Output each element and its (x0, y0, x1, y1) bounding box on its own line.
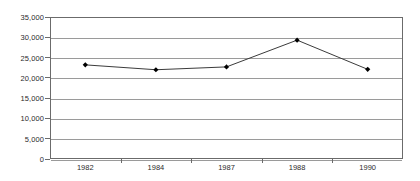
x-axis-tick-mark (332, 159, 333, 163)
data-point-marker (365, 67, 370, 72)
y-axis: 05,00010,00015,00020,00025,00030,00035,0… (0, 0, 46, 181)
line-chart: 05,00010,00015,00020,00025,00030,00035,0… (0, 0, 420, 181)
y-axis-tick-label: 5,000 (0, 134, 44, 143)
y-axis-tick-mark (45, 159, 50, 160)
x-axis-tick-label: 1990 (359, 163, 376, 172)
x-axis: 19821984198719881990 (50, 163, 403, 179)
y-axis-tick-mark (45, 17, 50, 18)
data-point-marker (224, 64, 229, 69)
y-axis-tick-label: 35,000 (0, 13, 44, 22)
x-axis-tick-label: 1987 (218, 163, 235, 172)
x-axis-tick-mark (191, 159, 192, 163)
y-axis-tick-label: 10,000 (0, 114, 44, 123)
y-axis-tick-label: 15,000 (0, 94, 44, 103)
x-axis-tick-label: 1988 (289, 163, 306, 172)
data-point-marker (83, 62, 88, 67)
y-axis-tick-mark (45, 98, 50, 99)
y-axis-tick-label: 20,000 (0, 73, 44, 82)
x-axis-tick-mark (262, 159, 263, 163)
data-point-marker (295, 38, 300, 43)
y-axis-tick-label: 30,000 (0, 33, 44, 42)
data-point-marker (153, 67, 158, 72)
x-axis-tick-label: 1982 (77, 163, 94, 172)
x-axis-tick-label: 1984 (148, 163, 165, 172)
y-axis-tick-mark (45, 77, 50, 78)
gridline (51, 160, 402, 161)
x-axis-tick-mark (121, 159, 122, 163)
y-axis-tick-mark (45, 138, 50, 139)
y-axis-tick-label: 25,000 (0, 53, 44, 62)
y-axis-tick-label: 0 (0, 155, 44, 164)
y-axis-tick-mark (45, 57, 50, 58)
data-series-layer (50, 17, 403, 159)
y-axis-tick-mark (45, 37, 50, 38)
y-axis-tick-mark (45, 118, 50, 119)
